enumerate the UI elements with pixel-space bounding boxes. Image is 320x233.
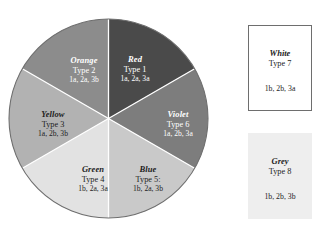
legend-box-white: White Type 7 1b, 2b, 3a — [248, 25, 312, 111]
colour-wheel: Red Type 1 1a, 2a, 3a Violet Type 6 1a, … — [8, 18, 209, 219]
colour-type-wheel-figure: Red Type 1 1a, 2a, 3a Violet Type 6 1a, … — [0, 0, 320, 233]
box-name-grey: Grey — [249, 156, 311, 166]
box-code-white: 1b, 2b, 3a — [249, 84, 311, 93]
box-name-white: White — [249, 48, 311, 58]
box-type-grey: Type 8 — [249, 167, 311, 176]
box-code-grey: 1b, 2b, 3b — [249, 192, 311, 201]
colour-wheel-svg — [8, 18, 209, 219]
legend-box-grey: Grey Type 8 1b, 2b, 3b — [248, 133, 312, 219]
box-type-white: Type 7 — [249, 59, 311, 68]
